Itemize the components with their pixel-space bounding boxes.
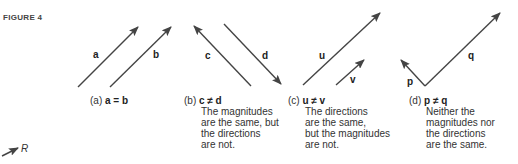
vector-a-arrow — [78, 27, 138, 87]
vector-label-c: c — [205, 50, 211, 61]
vector-d-arrow — [224, 24, 281, 84]
vector-label-p: p — [407, 76, 413, 87]
vector-c-arrow — [194, 26, 251, 86]
vector-label-u: u — [319, 50, 325, 61]
vector-label-d: d — [262, 50, 268, 61]
vector-label-b: b — [153, 49, 159, 60]
caption-a: (a) a = b — [90, 95, 128, 106]
point-label-r: R — [21, 143, 28, 154]
vector-label-v: v — [350, 74, 356, 85]
vector-u-arrow — [303, 13, 380, 85]
r-arrow — [2, 148, 18, 156]
vector-label-a: a — [93, 49, 99, 60]
vector-b-arrow — [110, 27, 171, 87]
caption-b: (b) c ≠ d The magnitudes are the same, b… — [184, 95, 279, 150]
caption-d: (d) p ≠ q Neither the magnitudes nor the… — [409, 95, 495, 150]
vector-q-arrow — [425, 13, 500, 86]
caption-c: (c) u ≠ v The directions are the same, b… — [288, 95, 390, 150]
vector-label-q: q — [468, 50, 474, 61]
